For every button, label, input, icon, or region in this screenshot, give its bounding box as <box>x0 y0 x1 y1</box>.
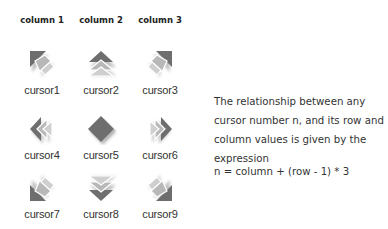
arrow-down-right-icon <box>143 172 177 204</box>
cursor-label: cursor6 <box>130 149 190 161</box>
arrow-down-icon <box>84 172 118 204</box>
cursor-label: cursor8 <box>71 208 131 220</box>
arrow-right-icon <box>143 113 177 145</box>
cursor-cell-2: cursor2 <box>71 48 131 96</box>
cursor-label: cursor5 <box>71 149 131 161</box>
column-header-1: column 1 <box>12 15 72 25</box>
cursor-cell-1: cursor1 <box>12 48 72 96</box>
cursor-cell-5: cursor5 <box>71 113 131 161</box>
arrow-down-left-icon <box>25 172 59 204</box>
cursor-cell-3: cursor3 <box>130 48 190 96</box>
arrow-up-icon <box>84 48 118 80</box>
arrow-up-right-icon <box>143 48 177 80</box>
cursor-label: cursor2 <box>71 84 131 96</box>
column-header-3: column 3 <box>130 15 190 25</box>
cursor-label: cursor4 <box>12 149 72 161</box>
cursor-label: cursor3 <box>130 84 190 96</box>
arrow-left-icon <box>25 113 59 145</box>
cursor-cell-8: cursor8 <box>71 172 131 220</box>
cursor-cell-6: cursor6 <box>130 113 190 161</box>
column-header-2: column 2 <box>71 15 131 25</box>
relationship-description: The relationship between any cursor numb… <box>214 92 386 168</box>
arrow-up-left-icon <box>25 48 59 80</box>
cursor-cell-4: cursor4 <box>12 113 72 161</box>
cursor-label: cursor7 <box>12 208 72 220</box>
cursor-cell-9: cursor9 <box>130 172 190 220</box>
cursor-label: cursor1 <box>12 84 72 96</box>
cursor-label: cursor9 <box>130 208 190 220</box>
cursor-formula: n = column + (row - 1) * 3 <box>214 166 349 177</box>
diamond-center-icon <box>84 113 118 145</box>
cursor-cell-7: cursor7 <box>12 172 72 220</box>
